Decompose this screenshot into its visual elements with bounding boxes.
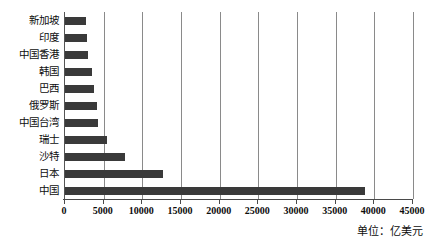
x-axis-tick	[257, 200, 258, 204]
bar	[65, 17, 86, 25]
gridline	[336, 12, 337, 199]
gridline	[374, 12, 375, 199]
y-axis-label: 日本	[39, 165, 59, 182]
x-axis-tick	[141, 200, 142, 204]
x-axis-tick	[103, 200, 104, 204]
bar	[65, 102, 97, 110]
x-axis-tick-label: 10000	[129, 205, 154, 217]
bar	[65, 170, 163, 178]
x-axis-tick	[296, 200, 297, 204]
x-axis-tick-label: 15000	[168, 205, 193, 217]
y-axis-label: 印度	[39, 29, 59, 46]
bar	[65, 85, 94, 93]
gridline	[297, 12, 298, 199]
bar	[65, 187, 365, 195]
y-axis-label: 巴西	[39, 80, 59, 97]
x-axis-tick-labels: 0500010000150002000025000300003500040000…	[0, 205, 429, 219]
y-axis-label: 中国台湾	[19, 114, 59, 131]
x-axis-tick-label: 0	[62, 205, 67, 217]
y-axis-label: 俄罗斯	[29, 97, 59, 114]
x-axis-tick-label: 35000	[322, 205, 347, 217]
y-axis-category-labels: 新加坡印度中国香港韩国巴西俄罗斯中国台湾瑞士沙特日本中国	[0, 12, 62, 199]
bar	[65, 153, 125, 161]
gridline	[220, 12, 221, 199]
x-axis-tick-label: 30000	[284, 205, 309, 217]
x-axis-tick-label: 5000	[93, 205, 113, 217]
bar	[65, 68, 92, 76]
x-axis-tick-label: 45000	[400, 205, 425, 217]
y-axis-label: 沙特	[39, 148, 59, 165]
x-axis-tick	[335, 200, 336, 204]
bar	[65, 119, 98, 127]
x-axis-tick	[64, 200, 65, 204]
x-axis-tick	[373, 200, 374, 204]
x-axis-tick	[180, 200, 181, 204]
gridline	[181, 12, 182, 199]
x-axis-tick-label: 40000	[361, 205, 386, 217]
plot-area	[64, 12, 414, 199]
y-axis-label: 韩国	[39, 63, 59, 80]
bar	[65, 51, 88, 59]
horizontal-bar-chart: 新加坡印度中国香港韩国巴西俄罗斯中国台湾瑞士沙特日本中国 05000100001…	[0, 0, 429, 244]
gridline	[258, 12, 259, 199]
x-axis-tick	[412, 200, 413, 204]
unit-annotation: 单位：亿美元	[357, 224, 423, 238]
y-axis-label: 中国	[39, 182, 59, 199]
bar	[65, 34, 87, 42]
y-axis-label: 新加坡	[29, 12, 59, 29]
bar	[65, 136, 107, 144]
y-axis-label: 瑞士	[39, 131, 59, 148]
y-axis-label: 中国香港	[19, 46, 59, 63]
x-axis-tick-label: 20000	[206, 205, 231, 217]
x-axis-tick	[219, 200, 220, 204]
x-axis-tick-label: 25000	[245, 205, 270, 217]
